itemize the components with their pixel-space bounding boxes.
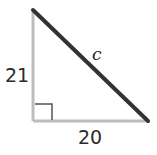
vertical-leg-label: 21 <box>5 66 29 85</box>
hypotenuse-label: c <box>92 46 102 63</box>
right-angle-marker <box>35 104 52 120</box>
horizontal-leg-label: 20 <box>78 128 102 147</box>
